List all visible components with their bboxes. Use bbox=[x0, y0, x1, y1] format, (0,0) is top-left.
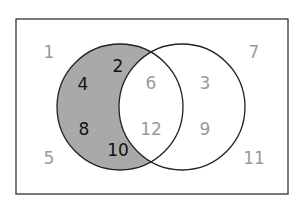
venn-diagram: 124637812910511 bbox=[0, 0, 303, 209]
number-4: 4 bbox=[78, 74, 89, 94]
number-5: 5 bbox=[44, 148, 55, 168]
number-1: 1 bbox=[44, 42, 55, 62]
number-3: 3 bbox=[200, 73, 211, 93]
number-9: 9 bbox=[200, 119, 211, 139]
number-6: 6 bbox=[146, 73, 157, 93]
number-2: 2 bbox=[113, 56, 124, 76]
number-7: 7 bbox=[249, 42, 260, 62]
number-11: 11 bbox=[243, 148, 265, 168]
number-10: 10 bbox=[107, 140, 129, 160]
number-8: 8 bbox=[79, 119, 90, 139]
number-12: 12 bbox=[140, 119, 162, 139]
